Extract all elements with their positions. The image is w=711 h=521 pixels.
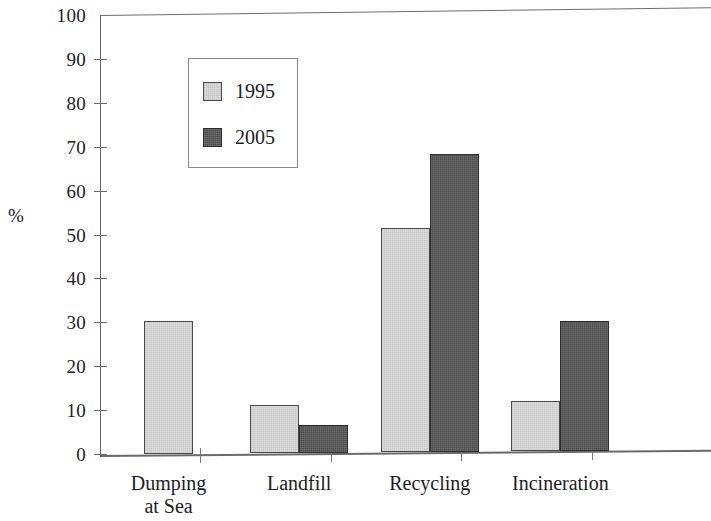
y-axis-tick-label-text: 90 [0, 50, 86, 69]
bar-recycling-2005 [430, 154, 479, 453]
legend-entry-1995: 1995 [203, 81, 275, 101]
legend-swatch-1995-icon [203, 82, 222, 101]
y-axis-tick [94, 366, 107, 367]
y-axis-tick-label-text: 40 [0, 269, 86, 288]
y-axis-tick [94, 235, 107, 236]
y-axis-tick [94, 410, 107, 411]
bar-incineration-2005 [560, 321, 609, 451]
bar-landfill-1995 [250, 405, 299, 453]
y-axis-tick-label-text: 10 [0, 401, 86, 420]
legend-label-1995: 1995 [235, 81, 275, 101]
bar-chart: % 0102030405060708090100 Dumping at SeaL… [0, 0, 711, 521]
y-axis-tick [94, 278, 107, 279]
y-axis-tick [94, 454, 107, 455]
y-axis-tick-label-text: 20 [0, 357, 86, 376]
y-axis-tick-label-text: 50 [0, 226, 86, 245]
plot-top-border [100, 7, 711, 16]
y-axis-tick-label-text: 30 [0, 313, 86, 332]
x-axis-label-incineration: Incineration [470, 472, 650, 495]
legend-label-2005: 2005 [235, 127, 275, 147]
y-axis-tick [94, 147, 107, 148]
y-axis-line [100, 16, 101, 456]
bar-landfill-2005 [299, 425, 348, 454]
y-axis-tick-label-text: 80 [0, 94, 86, 113]
bar-dumping-at-sea-1995 [144, 321, 193, 455]
y-axis-tick [94, 59, 107, 60]
y-axis-tick-label-text: 60 [0, 182, 86, 201]
legend-entry-2005: 2005 [203, 127, 275, 147]
y-axis-tick [94, 322, 107, 323]
y-axis-tick-label-text: 70 [0, 138, 86, 157]
bar-incineration-1995 [511, 401, 560, 451]
y-axis-tick [94, 191, 107, 192]
legend-swatch-2005-icon [203, 128, 222, 147]
y-axis-tick-label-text: 0 [0, 445, 86, 464]
legend: 1995 2005 [188, 58, 298, 168]
y-axis-tick [94, 103, 107, 104]
y-axis-unit-label: % [8, 206, 24, 225]
x-axis-tick [200, 448, 201, 463]
y-axis-tick-label-text: 100 [0, 6, 86, 25]
bar-recycling-1995 [381, 228, 430, 452]
